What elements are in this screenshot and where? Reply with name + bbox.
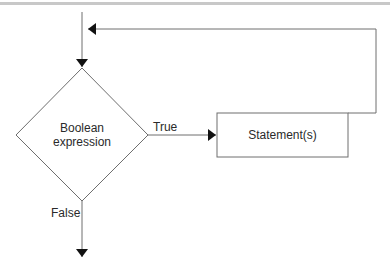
condition-label-line1: Boolean <box>42 121 122 135</box>
statement-label: Statement(s) <box>217 128 348 142</box>
loop-back-arrow <box>88 29 376 113</box>
false-label: False <box>51 206 80 220</box>
true-label: True <box>153 120 177 134</box>
condition-label-line2: expression <box>42 135 122 149</box>
